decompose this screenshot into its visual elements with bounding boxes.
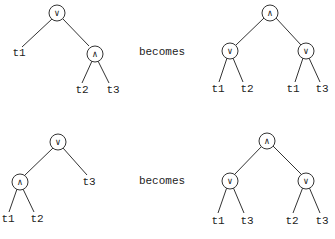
row1-after-tree: ∧ ∨ ∨ t1 t2 t1 t3 (211, 5, 328, 95)
leaf-t1: t1 (211, 83, 225, 95)
leaf-t2: t2 (285, 215, 298, 227)
or-operator-right: ∨ (303, 46, 308, 56)
leaf-t3: t3 (315, 215, 328, 227)
leaf-t1: t1 (12, 47, 26, 59)
or-operator-left: ∨ (227, 176, 232, 186)
row2-after-tree: ∧ ∨ ∨ t1 t3 t2 t3 (211, 133, 328, 227)
distribution-diagram: ∨ ∧ t1 t2 t3 becomes ∧ ∨ ∨ t1 t2 t1 t3 ∨… (0, 0, 335, 239)
leaf-t2: t2 (75, 84, 88, 96)
leaf-t3: t3 (106, 84, 119, 96)
becomes-label: becomes (139, 175, 185, 187)
and-operator: ∧ (92, 49, 97, 59)
or-operator: ∨ (55, 137, 60, 147)
leaf-t1: t1 (1, 213, 15, 225)
leaf-t1: t1 (286, 83, 300, 95)
row2-before-tree: ∨ ∧ t1 t2 t3 (1, 134, 95, 225)
and-operator: ∧ (264, 136, 269, 146)
becomes-label: becomes (139, 46, 185, 58)
row1-before-tree: ∨ ∧ t1 t2 t3 (12, 5, 119, 96)
leaf-t1: t1 (211, 215, 225, 227)
leaf-t2: t2 (240, 83, 253, 95)
and-operator: ∧ (267, 8, 272, 18)
leaf-t3: t3 (240, 215, 253, 227)
and-operator: ∧ (17, 177, 22, 187)
or-operator: ∨ (54, 8, 59, 18)
leaf-t3: t3 (315, 83, 328, 95)
leaf-t2: t2 (30, 213, 43, 225)
or-operator-right: ∨ (303, 176, 308, 186)
leaf-t3: t3 (82, 176, 95, 188)
or-operator-left: ∨ (227, 46, 232, 56)
